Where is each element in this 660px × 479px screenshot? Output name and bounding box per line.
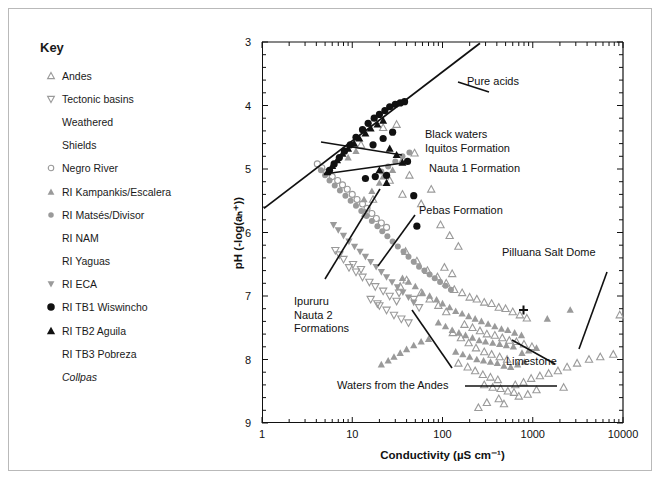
data-point — [610, 351, 617, 358]
legend-marker-ri-yaguas — [40, 254, 62, 268]
data-point — [585, 356, 592, 363]
legend-item-label: RI ECA — [62, 278, 97, 290]
annotation-leader-line — [579, 272, 607, 349]
annotation-black-waters-iquitos-formation: Black waters Iquitos Formation — [425, 128, 510, 155]
data-point — [360, 196, 367, 203]
legend-item-label: RI TB2 Aguila — [62, 325, 126, 337]
legend-item[interactable]: Tectonic basins — [40, 87, 240, 110]
x-tick-label: 1000 — [521, 428, 545, 440]
data-point — [464, 363, 471, 370]
data-point — [573, 360, 580, 367]
data-point — [378, 361, 385, 368]
data-point — [342, 193, 348, 199]
data-point — [469, 324, 476, 331]
data-point — [484, 320, 491, 327]
legend-item[interactable]: RI Kampankis/Escalera — [40, 180, 240, 203]
legend-item[interactable]: Collpas — [40, 365, 240, 388]
data-point — [432, 275, 438, 281]
data-point — [380, 135, 387, 142]
y-tick-label: 3 — [245, 36, 257, 48]
data-point — [397, 349, 404, 356]
legend-item[interactable]: Andes — [40, 64, 240, 87]
data-point — [523, 314, 530, 321]
legend-marker-ri-nam — [40, 231, 62, 245]
data-point — [494, 360, 501, 367]
data-point — [385, 357, 392, 364]
legend-item[interactable]: RI NAM — [40, 226, 240, 249]
annotation-leader-line — [412, 310, 452, 368]
data-point — [369, 141, 376, 148]
data-point — [386, 145, 394, 152]
legend-item[interactable]: RI Matsés/Divisor — [40, 203, 240, 226]
legend-item-label: RI NAM — [62, 232, 99, 244]
data-point — [318, 167, 324, 173]
data-point — [439, 300, 446, 307]
plot-canvas — [262, 42, 623, 423]
data-point — [481, 299, 488, 306]
legend-item[interactable]: Negro River — [40, 157, 240, 180]
data-point — [405, 320, 412, 327]
legend-item[interactable]: RI Yaguas — [40, 250, 240, 273]
data-point — [544, 315, 551, 322]
data-point — [442, 323, 449, 330]
annotation-waters-from-the-andes: Waters from the Andes — [337, 379, 448, 393]
pure-acids-line — [264, 43, 480, 208]
data-point — [379, 228, 385, 234]
data-point — [597, 353, 604, 360]
data-point — [520, 379, 527, 386]
data-point — [479, 371, 486, 378]
data-point — [499, 334, 506, 341]
data-point — [509, 308, 516, 315]
legend-marker-ri-matses-divisor — [40, 208, 62, 222]
data-point — [332, 183, 338, 189]
series-ri-tb1-wiswincho — [326, 98, 421, 230]
data-point — [533, 386, 540, 393]
data-point — [374, 301, 381, 308]
data-point — [374, 223, 380, 229]
data-point — [481, 348, 488, 355]
data-point — [473, 356, 480, 363]
data-point — [418, 338, 425, 345]
data-point — [353, 203, 359, 209]
legend-items: AndesTectonic basinsWeatheredShieldsNegr… — [40, 64, 240, 389]
x-tick-label: 10 — [346, 428, 358, 440]
data-point — [448, 287, 454, 293]
legend-item[interactable]: Weathered — [40, 110, 240, 133]
y-tick-label: 7 — [245, 290, 257, 302]
legend-marker-ri-kampankis-escalera — [40, 185, 62, 199]
data-point — [437, 279, 443, 285]
data-point — [415, 305, 422, 312]
data-point — [461, 321, 468, 328]
data-point — [386, 293, 393, 300]
legend-item[interactable]: Shields — [40, 134, 240, 157]
data-point — [358, 208, 364, 214]
data-point — [412, 283, 419, 290]
data-point — [399, 274, 406, 281]
data-point — [488, 351, 495, 358]
legend-item[interactable]: RI TB3 Pobreza — [40, 342, 240, 365]
legend-item-label: RI Yaguas — [62, 255, 110, 267]
data-point — [545, 370, 552, 377]
legend-item[interactable]: RI TB2 Aguila — [40, 319, 240, 342]
data-point — [405, 278, 412, 285]
legend-marker-tectonic-basins — [40, 92, 62, 106]
legend-title: Key — [40, 40, 240, 55]
data-point — [472, 315, 479, 322]
data-point — [401, 249, 407, 255]
data-point — [344, 154, 351, 161]
series-ri-eca — [330, 222, 417, 306]
data-point — [406, 149, 412, 155]
data-point — [383, 179, 391, 186]
data-point — [518, 332, 525, 339]
legend-item[interactable]: RI TB1 Wiswincho — [40, 296, 240, 319]
data-point — [421, 268, 427, 274]
data-point — [398, 316, 405, 323]
data-point — [446, 304, 453, 311]
data-point — [472, 367, 479, 374]
legend-item[interactable]: RI ECA — [40, 273, 240, 296]
data-point — [472, 344, 479, 351]
figure-root: Key AndesTectonic basinsWeatheredShields… — [0, 0, 660, 479]
data-point — [348, 198, 354, 204]
data-point — [496, 340, 503, 347]
data-point — [357, 141, 364, 148]
